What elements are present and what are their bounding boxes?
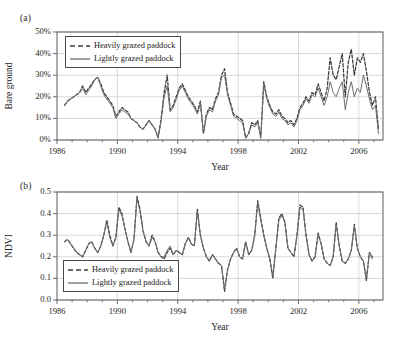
y-tick-label: 0.1 (6, 272, 51, 282)
panel-a-legend: Heavily grazed paddock Lightly grazed pa… (65, 36, 181, 68)
legend-item-heavy: Heavily grazed paddock (69, 39, 175, 52)
legend-item-light: Lightly grazed paddock (69, 52, 175, 65)
x-tick-label: 1998 (218, 146, 258, 156)
dashed-line-icon (69, 41, 91, 51)
dashed-line-icon (67, 265, 89, 275)
x-tick-label: 1990 (97, 306, 137, 316)
panel-b-ndvi: (b) Heavily grazed paddock Lightly graze… (0, 176, 404, 354)
legend-label-light: Lightly grazed paddock (89, 278, 172, 287)
x-tick-label: 2006 (339, 146, 379, 156)
y-tick-label: 50% (6, 26, 51, 36)
x-tick-label: 1998 (218, 306, 258, 316)
y-tick-label: 0.5 (6, 186, 51, 196)
y-tick-label: 0.0 (6, 294, 51, 304)
panel-b-x-axis-title: Year (180, 322, 260, 332)
panel-b-legend: Heavily grazed paddock Lightly grazed pa… (63, 260, 179, 292)
x-tick-label: 2002 (278, 146, 318, 156)
y-tick-label: 0.3 (6, 229, 51, 239)
y-tick-label: 30% (6, 69, 51, 79)
x-tick-label: 1986 (37, 306, 77, 316)
x-tick-label: 1986 (37, 146, 77, 156)
panel-a-x-axis-title: Year (180, 162, 260, 172)
y-tick-label: 0% (6, 134, 51, 144)
legend-label-heavy: Heavily grazed paddock (91, 41, 175, 50)
legend-item-heavy: Heavily grazed paddock (67, 263, 173, 276)
legend-label-light: Lightly grazed paddock (91, 54, 174, 63)
y-tick-label: 20% (6, 91, 51, 101)
panel-a-bare-ground: (a) Heavily grazed paddock Lightly graze… (0, 0, 404, 178)
x-tick-label: 2002 (278, 306, 318, 316)
solid-line-icon (67, 278, 89, 288)
x-tick-label: 1994 (158, 306, 198, 316)
legend-item-light: Lightly grazed paddock (67, 276, 173, 289)
x-tick-label: 2006 (339, 306, 379, 316)
x-tick-label: 1990 (97, 146, 137, 156)
y-tick-label: 40% (6, 48, 51, 58)
solid-line-icon (69, 54, 91, 64)
y-tick-label: 0.2 (6, 251, 51, 261)
x-tick-label: 1994 (158, 146, 198, 156)
figure-container: (a) Heavily grazed paddock Lightly graze… (0, 0, 404, 354)
legend-label-heavy: Heavily grazed paddock (89, 265, 173, 274)
y-tick-label: 0.4 (6, 208, 51, 218)
y-tick-label: 10% (6, 112, 51, 122)
